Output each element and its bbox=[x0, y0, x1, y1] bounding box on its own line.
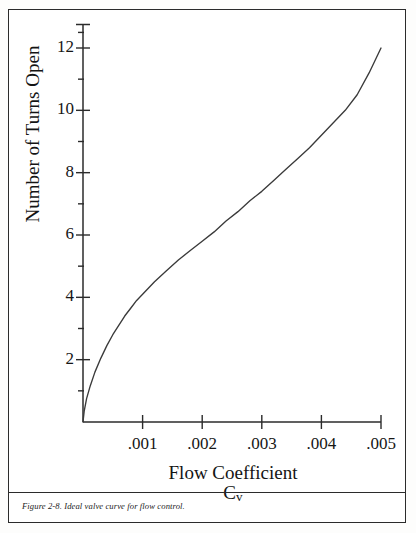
chart-plot-area: 24681012 .001.002.003.004.005 Number of … bbox=[0, 0, 416, 533]
valve-curve-line bbox=[83, 48, 381, 422]
figure-container: 24681012 .001.002.003.004.005 Number of … bbox=[0, 0, 416, 533]
curve-group bbox=[83, 48, 381, 422]
x-tick-label: .002 bbox=[172, 434, 232, 454]
axes-group bbox=[76, 24, 381, 422]
x-tick-label: .005 bbox=[351, 434, 411, 454]
y-axis-title: Number of Turns Open bbox=[22, 34, 44, 234]
caption-divider bbox=[9, 492, 405, 493]
y-tick-label: 2 bbox=[28, 349, 74, 369]
figure-caption: Figure 2-8. Ideal valve curve for flow c… bbox=[22, 500, 392, 512]
x-axis-title: Flow Coefficient bbox=[83, 462, 383, 484]
y-tick-label: 4 bbox=[28, 286, 74, 306]
x-tick-label: .004 bbox=[291, 434, 351, 454]
y-axis-title-wrapper: Number of Turns Open bbox=[22, 34, 46, 234]
x-tick-label: .003 bbox=[232, 434, 292, 454]
x-tick-label: .001 bbox=[113, 434, 173, 454]
